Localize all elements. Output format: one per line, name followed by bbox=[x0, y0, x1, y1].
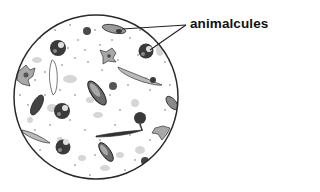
animalcule-dark-blob bbox=[109, 82, 117, 90]
animalcule-round-cell-3 bbox=[54, 103, 70, 119]
animalcules-label: animalcules bbox=[190, 16, 268, 31]
animalcule-dark-blob-2 bbox=[134, 112, 146, 124]
animalcule-dark-round bbox=[83, 27, 91, 35]
animalcule-round-cell-2 bbox=[139, 44, 154, 59]
animalcule-round-cell-1 bbox=[50, 40, 66, 56]
